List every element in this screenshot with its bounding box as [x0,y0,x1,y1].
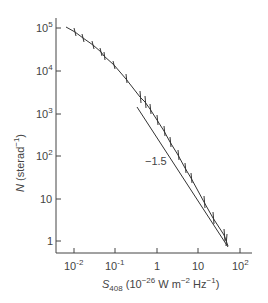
x-tick-label: 1 [154,260,160,272]
y-tick-label: 10 [40,193,52,205]
slope-reference-line [137,107,228,247]
x-tick-label: 10-2 [64,258,84,272]
y-axis-title: N (sterad−1) [12,134,26,192]
y-tick-label: 102 [36,148,53,162]
x-tick-labels: 10-2 10-1 1 10 102 [64,258,249,272]
y-tick-label: 1 [47,235,53,247]
y-tick-labels: 105 104 103 102 10 1 [36,20,53,247]
x-tick-label: 10 [192,260,204,272]
y-tick-label: 105 [36,20,53,34]
slope-label: −1.5 [145,155,167,167]
error-bars [74,28,227,246]
source-count-curve [66,27,228,246]
y-tick-label: 104 [36,63,53,77]
x-axis-title: S408 (10−26 W m−2 Hz−1) [102,276,219,293]
x-ticks [74,248,240,253]
y-tick-label: 103 [36,106,53,120]
x-tick-label: 10-1 [105,258,125,272]
y-ticks [56,28,61,241]
source-count-chart: 105 104 103 102 10 1 10-2 10-1 1 10 102 … [0,0,268,303]
x-tick-label: 102 [232,258,249,272]
